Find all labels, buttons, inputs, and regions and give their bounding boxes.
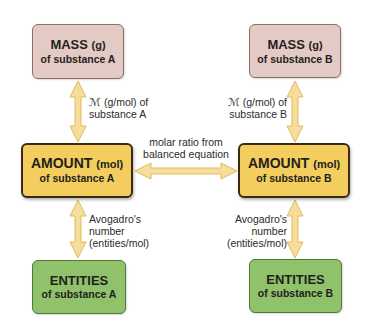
amount-b-title: AMOUNT	[248, 155, 309, 171]
amount-a-title: AMOUNT	[31, 155, 92, 171]
mass-b-title: MASS	[267, 37, 305, 52]
double-arrow-amount-entities-b	[287, 200, 303, 258]
amount-b-box: AMOUNT (mol) of substance B	[238, 143, 350, 198]
avogadro-b-label: Avogadro's number (entities/mol)	[227, 213, 287, 249]
molar-ratio-label: molar ratio from balanced equation	[130, 136, 242, 160]
mass-b-subtitle: of substance B	[257, 53, 332, 66]
mass-b-box: MASS (g) of substance B	[249, 24, 341, 78]
amount-b-unit: (mol)	[313, 158, 340, 170]
mass-a-box: MASS (g) of substance A	[32, 24, 124, 79]
molar-mass-a-label: ℳ (g/mol) of substance A	[89, 96, 148, 120]
amount-a-subtitle: of substance A	[40, 172, 115, 185]
double-arrow-mass-amount-b	[287, 81, 303, 142]
entities-b-title: ENTITIES	[266, 272, 325, 287]
mass-a-title: MASS	[50, 37, 88, 52]
entities-a-title: ENTITIES	[50, 273, 109, 288]
amount-a-unit: (mol)	[96, 158, 123, 170]
avogadro-a-label: Avogadro's number (entities/mol)	[89, 213, 149, 249]
amount-a-box: AMOUNT (mol) of substance A	[21, 143, 133, 198]
mass-b-unit: (g)	[309, 39, 323, 51]
molar-mass-b-label: ℳ (g/mol) of substance B	[228, 96, 287, 120]
entities-a-box: ENTITIES of substance A	[32, 260, 126, 314]
double-arrow-amount-a-amount-b	[135, 163, 237, 179]
entities-a-subtitle: of substance A	[42, 288, 117, 301]
double-arrow-amount-entities-a	[70, 200, 86, 258]
mass-a-subtitle: of substance A	[41, 53, 116, 66]
amount-b-subtitle: of substance B	[256, 172, 331, 185]
mass-a-unit: (g)	[92, 39, 106, 51]
entities-b-subtitle: of substance B	[258, 287, 333, 300]
entities-b-box: ENTITIES of substance B	[249, 259, 342, 313]
double-arrow-mass-amount-a	[70, 81, 86, 142]
